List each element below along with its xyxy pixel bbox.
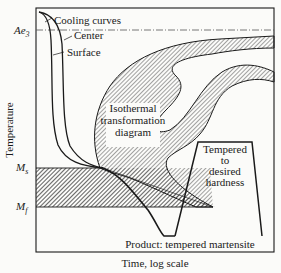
ittd-label-3: diagram [115,126,151,138]
x-axis-label: Time, log scale [121,257,188,269]
ittd-label-1: Isothermal [109,102,156,114]
leader-center [64,36,72,40]
surface-label: Surface [67,46,101,58]
tempered-label-4: hardness [206,176,245,188]
center-label: Center [74,29,104,41]
ittd-label-2: transformation [101,114,166,126]
product-label: Product: tempered martensite [125,238,255,250]
diagram-canvas: Cooling curves Center Surface Isothermal… [0,0,281,273]
y-axis-label: Temperature [3,102,15,158]
ae3-label: Ae3 [13,24,30,39]
mf-label: Mf [15,200,29,215]
ms-label: Ms [15,161,28,176]
cooling-curves-label: Cooling curves [54,14,121,26]
